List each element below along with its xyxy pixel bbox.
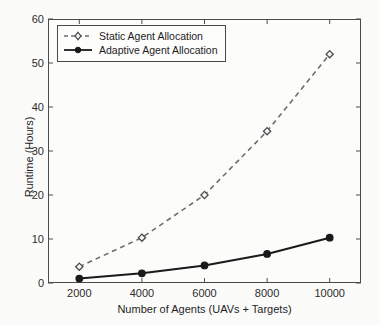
y-tick-label: 0 xyxy=(4,277,44,289)
series-adaptive xyxy=(76,234,333,281)
legend-label-static: Static Agent Allocation xyxy=(99,30,203,42)
legend-marker-static-icon xyxy=(63,30,93,42)
x-tick-label: 8000 xyxy=(255,287,279,299)
series-layer xyxy=(76,51,334,282)
data-point-marker xyxy=(201,262,207,268)
data-point-marker xyxy=(326,51,333,58)
x-tick-label: 4000 xyxy=(130,287,154,299)
x-axis-title: Number of Agents (UAVs + Targets) xyxy=(48,303,361,315)
data-point-marker xyxy=(76,263,83,270)
chart-legend: Static Agent Allocation Adaptive Agent A… xyxy=(57,25,226,62)
x-tick-label: 10000 xyxy=(314,287,345,299)
series-static xyxy=(76,51,334,271)
legend-marker-adaptive-icon xyxy=(63,44,93,56)
x-tick-label: 2000 xyxy=(67,287,91,299)
data-point-marker xyxy=(139,270,145,276)
chart-figure: 0102030405060 200040006000800010000 Numb… xyxy=(0,0,380,325)
series-line xyxy=(79,54,329,267)
series-line xyxy=(79,238,329,279)
data-point-marker xyxy=(264,251,270,257)
y-axis-title: Runtime (Hours) xyxy=(23,72,35,242)
legend-label-adaptive: Adaptive Agent Allocation xyxy=(99,44,218,56)
legend-item-adaptive: Adaptive Agent Allocation xyxy=(63,43,218,57)
x-axis-tick-labels: 200040006000800010000 xyxy=(48,287,361,303)
data-point-marker xyxy=(76,275,82,281)
x-tick-label: 6000 xyxy=(192,287,216,299)
y-axis-tick-labels: 0102030405060 xyxy=(0,19,44,283)
y-tick-label: 50 xyxy=(4,57,44,69)
data-point-marker xyxy=(327,234,333,240)
legend-item-static: Static Agent Allocation xyxy=(63,29,218,43)
y-tick-label: 60 xyxy=(4,13,44,25)
